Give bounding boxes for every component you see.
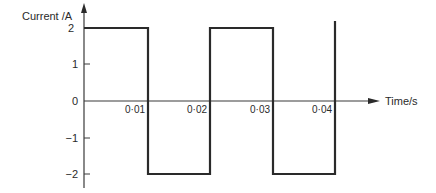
x-tick-label-0-04: 0·04 <box>312 104 332 115</box>
y-tick-label-minus-2: −2 <box>65 168 78 180</box>
y-tick-label-0: 0 <box>72 95 78 107</box>
x-tick-label-0-02: 0·02 <box>187 104 207 115</box>
x-tick-label-0-03: 0·03 <box>250 104 270 115</box>
y-tick-label-1: 1 <box>72 58 78 70</box>
y-tick-label-2: 2 <box>68 22 74 34</box>
square-wave-series <box>84 21 335 174</box>
x-axis-label: Time/s <box>385 95 418 107</box>
y-tick-label-minus-1: −1 <box>65 132 78 144</box>
square-wave-chart: Current /A Time/s 2 1 0 −1 −2 0·01 0·02 … <box>0 0 436 193</box>
y-axis-arrow-icon <box>81 3 87 13</box>
x-axis-arrow-icon <box>368 98 380 104</box>
y-axis-label: Current /A <box>22 10 73 22</box>
x-tick-label-0-01: 0·01 <box>125 104 145 115</box>
